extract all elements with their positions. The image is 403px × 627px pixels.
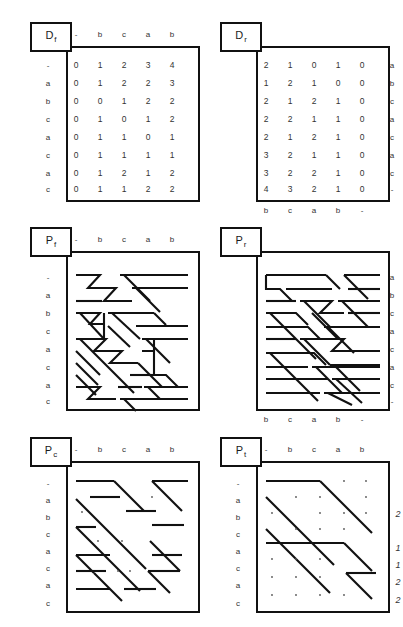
panel-df-cell-5-0: 0 [69, 150, 83, 160]
panel-df-cell-3-2: 0 [117, 114, 131, 124]
panel-dr-grid [256, 46, 390, 202]
panel-dr-label: Dr [235, 30, 247, 44]
panel-df-cell-0-0: 0 [69, 60, 83, 70]
panel-pt-sidevalue-2: 1 [391, 560, 403, 570]
panel-dr-cell-4-2: 2 [307, 132, 321, 142]
panel-pf-rowhead-7: c [41, 397, 55, 406]
panel-pc-label: Pc [45, 445, 57, 459]
panel-pf-label-box: Pf [30, 227, 72, 257]
panel-dr-colhead-3: b [331, 206, 345, 215]
panel-pr-rowhead-3: a [385, 327, 399, 336]
panel-dr-cell-5-4: 0 [355, 150, 369, 160]
panel-pt-colhead-0: - [259, 445, 273, 454]
panel-df-rowhead-1: a [41, 79, 55, 88]
panel-df-cell-1-3: 2 [141, 78, 155, 88]
panel-pc-colhead-0: - [69, 445, 83, 454]
panel-pc-rowhead-1: a [41, 496, 55, 505]
panel-pt-colhead-2: c [307, 445, 321, 454]
panel-df-cell-7-0: 0 [69, 184, 83, 194]
panel-dr-cell-6-4: 0 [355, 168, 369, 178]
panel-dr-cell-2-2: 2 [307, 96, 321, 106]
panel-pr: Pr [220, 227, 395, 427]
panel-pr-colhead-0: b [259, 415, 273, 424]
panel-pr-colhead-2: a [307, 415, 321, 424]
panel-df-cell-4-3: 0 [141, 132, 155, 142]
panel-dr-cell-3-4: 0 [355, 114, 369, 124]
panel-df-cell-5-2: 1 [117, 150, 131, 160]
panel-pr-rowhead-4: c [385, 345, 399, 354]
panel-dr-cell-5-3: 1 [331, 150, 345, 160]
panel-pc: Pc [30, 437, 200, 617]
panel-df-colhead-2: c [117, 30, 131, 39]
panel-df-rowhead-4: a [41, 133, 55, 142]
panel-dr-cell-0-1: 1 [283, 60, 297, 70]
panel-pc-label-box: Pc [30, 437, 72, 467]
panel-pf-rowhead-1: a [41, 291, 55, 300]
panel-pt-label: Pt [236, 445, 247, 459]
panel-dr-cell-7-4: 0 [355, 184, 369, 194]
panel-dr-rowhead-5: a [385, 151, 399, 160]
panel-dr-cell-1-3: 0 [331, 78, 345, 88]
panel-pc-rowhead-0: - [41, 479, 55, 488]
panel-dr-cell-1-4: 0 [355, 78, 369, 88]
panel-pt-rowhead-0: - [231, 479, 245, 488]
panel-df-cell-6-4: 2 [165, 168, 179, 178]
panel-pt-sidevalue-0: 2 [391, 509, 403, 519]
panel-pr-rowhead-0: a [385, 273, 399, 282]
panel-df-cell-5-1: 1 [93, 150, 107, 160]
panel-dr-cell-4-1: 1 [283, 132, 297, 142]
panel-df-cell-6-1: 1 [93, 168, 107, 178]
panel-df-colhead-1: b [93, 30, 107, 39]
panel-pr-rowhead-6: c [385, 381, 399, 390]
panel-df-grid [66, 46, 200, 202]
panel-dr-rowhead-6: c [385, 169, 399, 178]
panel-pr-colhead-4: - [355, 415, 369, 424]
panel-pt-rowhead-2: b [231, 513, 245, 522]
panel-pt-sidevalue-1: 1 [391, 543, 403, 553]
panel-pf-colhead-0: - [69, 235, 83, 244]
panel-dr: Dr 2101012100212102211021210321103221043… [220, 22, 395, 212]
panel-dr-cell-0-4: 0 [355, 60, 369, 70]
panel-pc-colhead-4: b [165, 445, 179, 454]
panel-pc-colhead-3: a [141, 445, 155, 454]
panel-df-rowhead-7: c [41, 185, 55, 194]
panel-pr-rowhead-2: c [385, 309, 399, 318]
panel-df-cell-4-2: 1 [117, 132, 131, 142]
panel-pt: Pt [220, 437, 395, 617]
panel-dr-rowhead-4: c [385, 133, 399, 142]
panel-df-cell-5-3: 1 [141, 150, 155, 160]
panel-pt-rowhead-7: c [231, 599, 245, 608]
panel-dr-cell-4-4: 0 [355, 132, 369, 142]
panel-pf-rowhead-6: a [41, 381, 55, 390]
panel-df-cell-4-4: 1 [165, 132, 179, 142]
panel-pr-paths [220, 227, 395, 427]
panel-dr-cell-7-3: 1 [331, 184, 345, 194]
panel-df-cell-6-3: 1 [141, 168, 155, 178]
panel-dr-cell-3-1: 2 [283, 114, 297, 124]
panel-df-cell-0-1: 1 [93, 60, 107, 70]
panel-pf-colhead-4: b [165, 235, 179, 244]
panel-dr-cell-3-2: 1 [307, 114, 321, 124]
panel-df-cell-2-4: 2 [165, 96, 179, 106]
panel-df-colhead-3: a [141, 30, 155, 39]
panel-df-cell-7-4: 2 [165, 184, 179, 194]
panel-dr-cell-6-0: 3 [259, 168, 273, 178]
panel-pc-rowhead-4: a [41, 547, 55, 556]
panel-dr-cell-5-2: 1 [307, 150, 321, 160]
panel-dr-cell-5-0: 3 [259, 150, 273, 160]
panel-pr-label: Pr [235, 235, 246, 249]
panel-pf-colhead-2: c [117, 235, 131, 244]
panel-pf-colhead-1: b [93, 235, 107, 244]
panel-df: Df -bcab-abcacac012340122300122010120110… [30, 22, 200, 200]
panel-df-rowhead-5: c [41, 151, 55, 160]
panel-dr-rowhead-7: - [385, 185, 399, 194]
panel-dr-cell-2-3: 1 [331, 96, 345, 106]
panel-df-cell-6-2: 2 [117, 168, 131, 178]
panel-pt-label-box: Pt [220, 437, 262, 467]
panel-df-cell-0-4: 4 [165, 60, 179, 70]
panel-pr-colhead-3: b [331, 415, 345, 424]
panel-df-rowhead-3: c [41, 115, 55, 124]
panel-df-cell-3-4: 2 [165, 114, 179, 124]
panel-dr-colhead-0: b [259, 206, 273, 215]
panel-df-cell-1-1: 1 [93, 78, 107, 88]
